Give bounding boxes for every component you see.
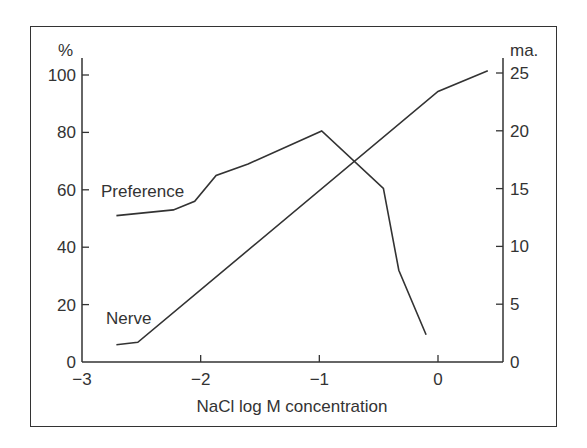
- right-tick-label: 15: [510, 180, 529, 199]
- right-axis-unit: ma.: [510, 41, 538, 60]
- x-tick-label: −2: [191, 370, 210, 389]
- left-axis-unit: %: [58, 41, 73, 60]
- x-tick-label: 0: [433, 370, 442, 389]
- left-tick-label: 100: [48, 66, 76, 85]
- right-axis-ticks: 0510152025: [496, 64, 529, 372]
- right-tick-label: 20: [510, 122, 529, 141]
- right-tick-label: 25: [510, 64, 529, 83]
- x-tick-label: −1: [310, 370, 329, 389]
- left-axis-ticks: 020406080100: [48, 66, 89, 372]
- preference-series-label: Preference: [101, 182, 184, 201]
- preference-series-line: [116, 131, 426, 335]
- left-tick-label: 60: [57, 181, 76, 200]
- left-tick-label: 80: [57, 123, 76, 142]
- line-chart: % ma. 020406080100 0510152025 −3−2−10 Pr…: [0, 0, 587, 448]
- right-tick-label: 5: [510, 295, 519, 314]
- left-tick-label: 40: [57, 238, 76, 257]
- nerve-series-line: [116, 71, 487, 345]
- x-axis-title: NaCl log M concentration: [197, 397, 388, 416]
- right-tick-label: 0: [510, 353, 519, 372]
- right-tick-label: 10: [510, 237, 529, 256]
- nerve-series-label: Nerve: [106, 309, 151, 328]
- x-axis-ticks: −3−2−10: [72, 355, 442, 389]
- x-tick-label: −3: [72, 370, 91, 389]
- left-tick-label: 20: [57, 296, 76, 315]
